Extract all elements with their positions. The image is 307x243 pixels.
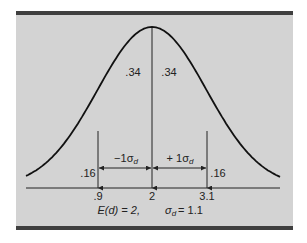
area-label-right-center: .34 xyxy=(161,66,176,78)
plus-1sd-label: + 1σd xyxy=(167,152,194,166)
area-label-right-tail: .16 xyxy=(210,167,225,179)
x-tick-1: 2 xyxy=(149,190,155,202)
normal-curve-chart: .34 .34 .16 .16 −1σd + 1σd .9 2 3.1 E(d)… xyxy=(0,0,307,243)
caption-sd: σd= 1.1 xyxy=(165,204,203,218)
caption-mean: E(d) = 2, xyxy=(98,204,141,216)
area-label-left-tail: .16 xyxy=(80,167,95,179)
bell-curve xyxy=(26,27,280,177)
area-label-left-center: .34 xyxy=(125,66,140,78)
minus-1sd-label: −1σd xyxy=(114,152,138,166)
x-tick-0: .9 xyxy=(93,190,102,202)
x-tick-2: 3.1 xyxy=(199,190,214,202)
